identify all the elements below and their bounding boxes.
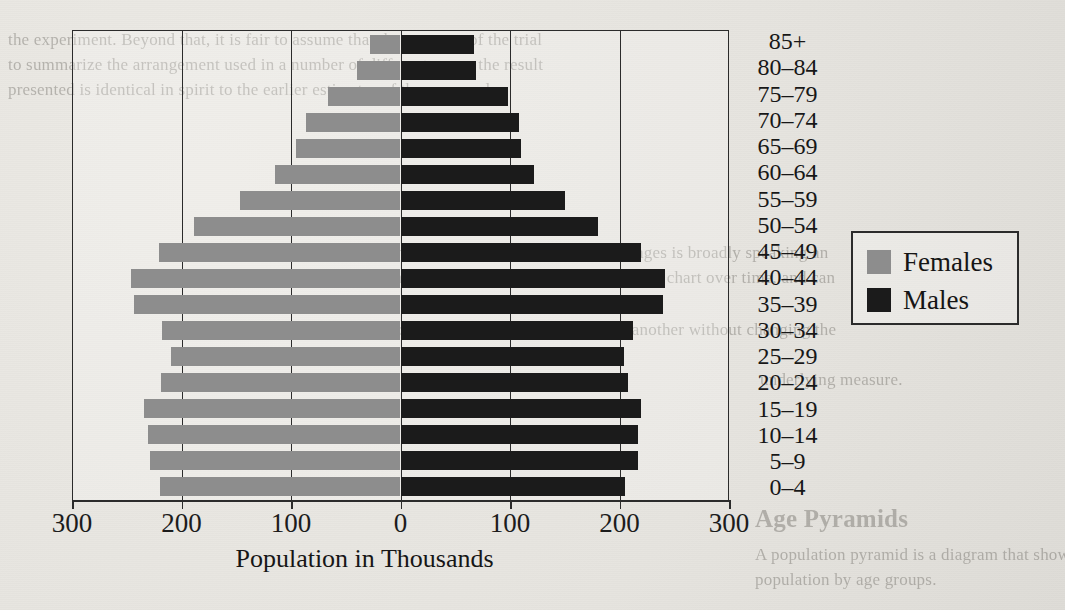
bar-male bbox=[401, 61, 477, 81]
bar-female bbox=[134, 295, 400, 315]
age-group-label: 5–9 bbox=[735, 450, 840, 473]
bar-male bbox=[401, 451, 639, 471]
bar-male bbox=[401, 113, 519, 133]
bar-male bbox=[401, 35, 474, 55]
bar-row bbox=[72, 293, 729, 316]
bar-male bbox=[401, 243, 642, 263]
bar-female bbox=[370, 35, 401, 55]
age-group-label: 0–4 bbox=[735, 476, 840, 499]
age-group-label: 85+ bbox=[735, 30, 840, 53]
age-group-label: 50–54 bbox=[735, 214, 840, 237]
bar-female bbox=[148, 425, 401, 445]
bar-female bbox=[161, 373, 401, 393]
bar-row bbox=[72, 189, 729, 212]
bar-row bbox=[72, 267, 729, 290]
age-group-label: 70–74 bbox=[735, 109, 840, 132]
bar-female bbox=[160, 477, 401, 497]
age-group-label: 10–14 bbox=[735, 424, 840, 447]
bar-female bbox=[240, 191, 401, 211]
bar-row bbox=[72, 33, 729, 56]
x-axis-title: Population in Thousands bbox=[0, 544, 729, 574]
bar-row bbox=[72, 85, 729, 108]
bar-female bbox=[150, 451, 401, 471]
bar-male bbox=[401, 87, 508, 107]
x-axis-tick-label: 100 bbox=[271, 508, 312, 538]
bar-male bbox=[401, 295, 664, 315]
bar-male bbox=[401, 347, 624, 367]
bar-row bbox=[72, 163, 729, 186]
age-group-label: 15–19 bbox=[735, 398, 840, 421]
age-group-label: 20–24 bbox=[735, 371, 840, 394]
x-axis-tick-label: 200 bbox=[161, 508, 202, 538]
bar-row bbox=[72, 319, 729, 342]
population-pyramid-chart bbox=[72, 30, 729, 500]
x-axis-tick-label: 300 bbox=[709, 508, 750, 538]
legend-swatch-males-icon bbox=[867, 288, 891, 312]
bar-female bbox=[328, 87, 400, 107]
legend-item-males: Males bbox=[867, 281, 1017, 319]
bars-container bbox=[72, 30, 729, 500]
bar-female bbox=[171, 347, 401, 367]
legend-swatch-females-icon bbox=[867, 250, 891, 274]
bar-female bbox=[296, 139, 400, 159]
bar-row bbox=[72, 345, 729, 368]
age-group-label: 30–34 bbox=[735, 319, 840, 342]
bar-female bbox=[275, 165, 401, 185]
bar-male bbox=[401, 165, 535, 185]
legend: Females Males bbox=[851, 231, 1019, 325]
bar-row bbox=[72, 137, 729, 160]
bar-male bbox=[401, 269, 666, 289]
legend-item-females: Females bbox=[867, 243, 1017, 281]
bar-row bbox=[72, 59, 729, 82]
bar-female bbox=[159, 243, 401, 263]
x-axis-tick-label: 300 bbox=[52, 508, 93, 538]
bar-female bbox=[162, 321, 401, 341]
x-axis-tick-label: 100 bbox=[490, 508, 531, 538]
bar-row bbox=[72, 397, 729, 420]
age-group-label: 25–29 bbox=[735, 345, 840, 368]
bar-female bbox=[131, 269, 400, 289]
bar-male bbox=[401, 139, 521, 159]
bar-male bbox=[401, 399, 642, 419]
bar-row bbox=[72, 215, 729, 238]
bar-row bbox=[72, 371, 729, 394]
bar-male bbox=[401, 217, 598, 237]
age-group-label: 65–69 bbox=[735, 135, 840, 158]
bar-female bbox=[306, 113, 400, 133]
bar-row bbox=[72, 475, 729, 498]
bar-female bbox=[194, 217, 401, 237]
bar-row bbox=[72, 449, 729, 472]
legend-label-males: Males bbox=[903, 285, 969, 315]
bar-male bbox=[401, 321, 633, 341]
bar-male bbox=[401, 373, 629, 393]
legend-label-females: Females bbox=[903, 247, 993, 277]
bar-row bbox=[72, 423, 729, 446]
age-group-labels: 85+80–8475–7970–7465–6960–6455–5950–5445… bbox=[735, 28, 840, 500]
age-group-label: 75–79 bbox=[735, 83, 840, 106]
x-axis-tick-label: 200 bbox=[599, 508, 640, 538]
bar-male bbox=[401, 191, 565, 211]
age-group-label: 55–59 bbox=[735, 188, 840, 211]
bar-row bbox=[72, 111, 729, 134]
bar-female bbox=[357, 61, 401, 81]
age-group-label: 35–39 bbox=[735, 293, 840, 316]
bar-male bbox=[401, 477, 625, 497]
bar-female bbox=[144, 399, 400, 419]
bar-row bbox=[72, 241, 729, 264]
age-group-label: 80–84 bbox=[735, 56, 840, 79]
x-axis-tick-label: 0 bbox=[394, 508, 408, 538]
age-group-label: 40–44 bbox=[735, 266, 840, 289]
bar-male bbox=[401, 425, 639, 445]
age-group-label: 45–49 bbox=[735, 240, 840, 263]
age-group-label: 60–64 bbox=[735, 161, 840, 184]
